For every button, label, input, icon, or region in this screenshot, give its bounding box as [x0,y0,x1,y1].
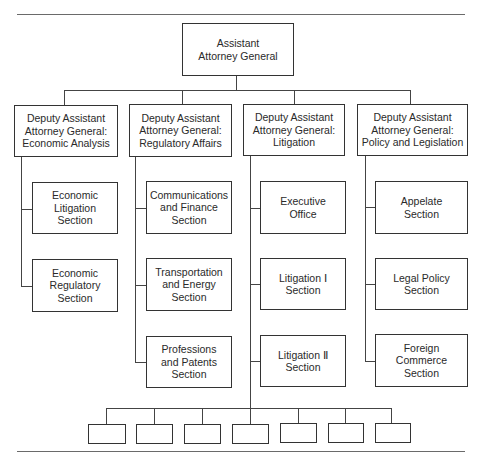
box-line: Attorney General: [22,125,110,138]
box-line: Executive [280,195,326,208]
connector [135,285,146,286]
field-office-box [232,424,269,444]
top-rule [17,14,465,15]
box-line: Office [280,208,326,221]
box-line: Economic [50,267,101,280]
box-line: Litigation Ⅰ [279,272,327,285]
bottom-rule [17,451,465,452]
connector [365,207,375,208]
box-line: Attorney General: [253,124,335,137]
foreign-commerce-section-box: ForeignCommerceSection [375,334,468,387]
connector [135,208,146,209]
transportation-energy-section-box: Transportationand EnergySection [146,258,232,311]
connector [298,408,299,424]
litigation-2-section-box: Litigation ⅡSection [260,335,346,387]
box-line: Section [279,284,327,297]
field-office-box [328,423,364,443]
field-office-box [88,424,126,444]
box-line: Communications [150,189,228,202]
box-line: Deputy Assistant [139,112,222,125]
legal-policy-section-box: Legal PolicySection [375,258,468,310]
box-line: Section [161,368,217,381]
field-office-box [375,423,411,443]
deputy-policy-legislation-box: Deputy AssistantAttorney General:Policy … [357,104,468,156]
box-line: Regulatory Affairs [139,137,222,150]
economic-litigation-section-box: EconomicLitigationSection [32,182,118,234]
connector [106,408,391,409]
box-line: Litigation Ⅱ [278,349,328,362]
box-line: Commerce [396,354,447,367]
box-line: and Finance [150,201,228,214]
connector [365,156,366,361]
box-line: Attorney General: [139,124,222,137]
executive-office-box: ExecutiveOffice [260,181,346,234]
box-line: Section [401,208,442,221]
box-line: Litigation [253,136,335,149]
box-line: Section [396,367,447,380]
connector [135,362,146,363]
box-line: Section [278,361,328,374]
box-line: Policy and Legislation [362,136,464,149]
connector [21,286,32,287]
communications-finance-section-box: Communicationsand FinanceSection [146,181,232,234]
box-line: Section [155,291,222,304]
connector [345,408,346,424]
box-line: Litigation [52,202,98,215]
box-line: Deputy Assistant [253,111,335,124]
box-line: Section [150,214,228,227]
field-office-box [184,424,221,444]
deputy-economic-analysis-box: Deputy AssistantAttorney General:Economi… [14,105,118,157]
connector [365,361,375,362]
box-line: and Patents [161,356,217,369]
box-line: and Energy [155,278,222,291]
connector [250,156,251,424]
connector [21,157,22,286]
box-line: Regulatory [50,279,101,292]
connector [294,90,295,104]
connector [182,90,183,104]
deputy-regulatory-affairs-box: Deputy AssistantAttorney General:Regulat… [129,104,232,157]
box-line: Attorney General [198,50,277,63]
box-line: Assistant [198,37,277,50]
box-line: Section [52,214,98,227]
connector [154,408,155,424]
box-line: Legal Policy [393,272,450,285]
connector [250,361,260,362]
box-line: Economic Analysis [22,137,110,150]
professions-patents-section-box: Professionsand PatentsSection [146,336,232,388]
connector [236,76,237,90]
connector [135,157,136,362]
deputy-litigation-box: Deputy AssistantAttorney General:Litigat… [243,104,345,156]
box-line: Economic [52,189,98,202]
box-line: Section [50,292,101,305]
box-line: Deputy Assistant [22,112,110,125]
box-line: Section [393,284,450,297]
connector [250,208,260,209]
connector [21,209,32,210]
box-line: Transportation [155,266,222,279]
connector [202,408,203,424]
connector [64,90,65,105]
field-office-box [280,423,317,443]
field-office-box [136,424,173,444]
box-line: Deputy Assistant [362,111,464,124]
box-line: Foreign [396,342,447,355]
connector [391,408,392,424]
box-line: Appelate [401,195,442,208]
box-line: Professions [161,343,217,356]
connector [410,90,411,104]
assistant-attorney-general-box: AssistantAttorney General [182,23,294,76]
litigation-1-section-box: Litigation ⅠSection [260,258,346,310]
appelate-section-box: AppelateSection [375,181,468,234]
box-line: Attorney General: [362,124,464,137]
economic-regulatory-section-box: EconomicRegulatorySection [32,259,118,312]
connector [250,284,260,285]
connector [64,90,411,91]
connector [365,284,375,285]
connector [106,408,107,424]
